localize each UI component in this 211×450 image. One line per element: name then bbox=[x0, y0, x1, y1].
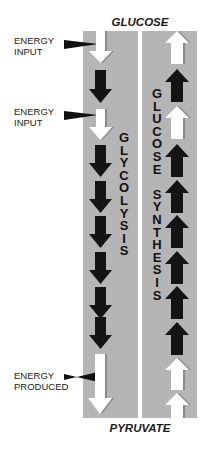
energy-input-label-2: ENERGY INPUT bbox=[14, 106, 54, 128]
energy-produced-label: ENERGY PRODUCED bbox=[14, 370, 68, 392]
pyruvate-label: PYRUVATE bbox=[83, 422, 197, 434]
glycolysis-label: GLYCOLYSIS bbox=[117, 132, 131, 258]
arrow-down-white-icon bbox=[89, 31, 112, 63]
arrow-down-black-icon bbox=[89, 70, 112, 103]
energy-input-label-1: ENERGY INPUT bbox=[14, 35, 54, 57]
glucose-synthesis-label: GLUCOSE SYNTHESIS bbox=[150, 88, 164, 302]
glucose-label: GLUCOSE bbox=[83, 16, 197, 28]
